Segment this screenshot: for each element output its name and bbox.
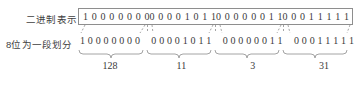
decimal-value: 11 bbox=[151, 60, 211, 72]
bit: 0 bbox=[225, 11, 230, 22]
bit: 0 bbox=[150, 11, 155, 22]
decimal-values-row: 128 11 3 31 bbox=[80, 60, 354, 72]
bit: 0 bbox=[88, 35, 93, 48]
bit: 0 bbox=[175, 35, 180, 48]
bit: 0 bbox=[234, 11, 239, 22]
bit: 0 bbox=[135, 35, 140, 48]
bit: 0 bbox=[167, 35, 172, 48]
bit: 1 bbox=[309, 11, 314, 22]
bit: 0 bbox=[283, 11, 288, 22]
bit: 1 bbox=[80, 35, 85, 48]
bit: 1 bbox=[318, 35, 323, 48]
bit: 0 bbox=[96, 35, 101, 48]
bit: 0 bbox=[111, 35, 116, 48]
bit: 0 bbox=[92, 11, 97, 22]
binary-representation-label: 二进制表示 bbox=[26, 12, 77, 26]
bit: 0 bbox=[302, 35, 307, 48]
bit: 0 bbox=[251, 11, 256, 22]
bit: 0 bbox=[119, 35, 124, 48]
bit: 0 bbox=[216, 11, 221, 22]
bit: 1 bbox=[183, 35, 188, 48]
decimal-value: 128 bbox=[80, 60, 140, 72]
decimal-value: 31 bbox=[294, 60, 354, 72]
bit-group: 0 0 0 1 1 1 1 1 bbox=[294, 35, 354, 48]
bit: 1 bbox=[269, 11, 274, 22]
bit: 0 bbox=[127, 11, 132, 22]
grouped-bits-row: 1 0 0 0 0 0 0 0 0 0 0 0 1 0 1 1 0 0 0 0 … bbox=[80, 35, 354, 48]
bit: 0 bbox=[101, 11, 106, 22]
bit: 1 bbox=[202, 11, 207, 22]
bit: 1 bbox=[341, 35, 346, 48]
bit: 0 bbox=[223, 35, 228, 48]
bit: 0 bbox=[167, 11, 172, 22]
bit: 0 bbox=[260, 11, 265, 22]
bit: 0 bbox=[176, 11, 181, 22]
binary-segment: 0 0 0 0 0 0 1 1 bbox=[216, 11, 283, 22]
decimal-value: 3 bbox=[223, 60, 283, 72]
bit-group: 0 0 0 0 1 0 1 1 bbox=[151, 35, 211, 48]
bit: 0 bbox=[109, 11, 114, 22]
bit-group: 1 0 0 0 0 0 0 0 bbox=[80, 35, 140, 48]
bit: 1 bbox=[344, 11, 349, 22]
bit: 0 bbox=[242, 11, 247, 22]
bit: 1 bbox=[206, 35, 211, 48]
bit: 0 bbox=[231, 35, 236, 48]
bit: 0 bbox=[191, 35, 196, 48]
bit: 0 bbox=[193, 11, 198, 22]
bit: 1 bbox=[326, 11, 331, 22]
bit: 0 bbox=[104, 35, 109, 48]
bit: 0 bbox=[294, 35, 299, 48]
bit: 0 bbox=[159, 35, 164, 48]
bit: 1 bbox=[83, 11, 88, 22]
bit: 1 bbox=[325, 35, 330, 48]
binary-segment: 0 0 0 1 1 1 1 1 bbox=[283, 11, 350, 22]
bit: 0 bbox=[238, 35, 243, 48]
binary-grouping-diagram: 二进制表示 8位为一段划分 1 0 bbox=[0, 0, 359, 86]
bit: 1 bbox=[318, 11, 323, 22]
bit: 0 bbox=[127, 35, 132, 48]
bit: 0 bbox=[300, 11, 305, 22]
bit: 0 bbox=[246, 35, 251, 48]
bit: 1 bbox=[278, 35, 283, 48]
bit: 1 bbox=[335, 11, 340, 22]
bit: 0 bbox=[254, 35, 259, 48]
eight-bit-grouping-label: 8位为一段划分 bbox=[6, 37, 73, 51]
bit: 0 bbox=[118, 11, 123, 22]
bit: 0 bbox=[136, 11, 141, 22]
bit: 0 bbox=[291, 11, 296, 22]
bit: 1 bbox=[270, 35, 275, 48]
bit: 1 bbox=[198, 35, 203, 48]
bit-group: 0 0 0 0 0 0 1 1 bbox=[223, 35, 283, 48]
bit: 1 bbox=[185, 11, 190, 22]
bit: 0 bbox=[151, 35, 156, 48]
binary-segment: 0 0 0 0 1 0 1 1 bbox=[150, 11, 217, 22]
bit: 1 bbox=[333, 35, 338, 48]
bit: 0 bbox=[310, 35, 315, 48]
bit: 0 bbox=[262, 35, 267, 48]
bit: 0 bbox=[158, 11, 163, 22]
binary-segment: 1 0 0 0 0 0 0 0 bbox=[83, 11, 150, 22]
binary-string-row: 1 0 0 0 0 0 0 0 0 0 0 0 1 0 1 1 0 0 0 0 … bbox=[83, 10, 349, 23]
bit: 1 bbox=[349, 35, 354, 48]
